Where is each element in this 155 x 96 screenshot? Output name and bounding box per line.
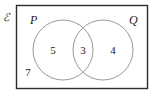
- region-count-intersection: 3: [78, 45, 88, 56]
- region-count-outside: 7: [23, 67, 33, 78]
- region-count-p-only: 5: [48, 45, 58, 56]
- region-count-q-only: 4: [108, 45, 118, 56]
- universal-set-label: ℰ: [3, 12, 10, 23]
- set-q-label: Q: [129, 14, 138, 26]
- set-p-label: P: [30, 14, 37, 26]
- venn-diagram-figure: ℰ P Q 5 3 4 7: [0, 0, 155, 96]
